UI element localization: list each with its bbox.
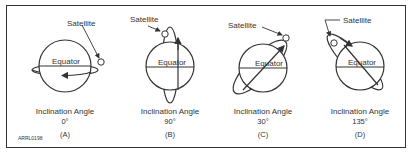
equator-label: Equator: [52, 57, 80, 66]
panel-b: Satellite Equator Inclination Angle 90° …: [130, 15, 200, 139]
equator-label: Equator: [158, 58, 186, 67]
satellite-label: Satellite: [343, 16, 372, 25]
satellite-label: Satellite: [67, 19, 96, 28]
inclination-caption: Inclination Angle: [36, 107, 95, 116]
panel-label: (C): [258, 130, 269, 139]
panel-label: (A): [60, 130, 71, 139]
panel-label: (B): [165, 130, 176, 139]
orbit-inclination-diagram: Satellite Equator Inclination Angle 0° (…: [0, 0, 414, 159]
inclination-value: 30°: [257, 117, 268, 126]
inclination-caption: Inclination Angle: [141, 107, 200, 116]
inclination-value: 90°: [164, 117, 175, 126]
inclination-value: 135°: [352, 117, 368, 126]
figure-id: ARRL0198: [18, 135, 43, 141]
inclination-value: 0°: [61, 117, 68, 126]
satellite-icon: [162, 31, 168, 37]
panel-label: (D): [355, 130, 366, 139]
panel-a: Satellite Equator Inclination Angle 0° (…: [18, 19, 104, 141]
satellite-label: Satellite: [228, 21, 257, 30]
satellite-icon: [283, 35, 289, 41]
panel-c: Satellite Equator Inclination Angle 30° …: [226, 21, 294, 139]
inclination-caption: Inclination Angle: [234, 107, 293, 116]
inclination-caption: Inclination Angle: [331, 107, 390, 116]
equator-label: Equator: [255, 59, 283, 68]
satellite-icon: [98, 59, 104, 65]
equator-label: Equator: [348, 58, 376, 67]
panel-d: Satellite Equator Inclination Angle 135°…: [321, 16, 390, 139]
satellite-icon: [331, 40, 337, 46]
satellite-label: Satellite: [130, 15, 159, 24]
